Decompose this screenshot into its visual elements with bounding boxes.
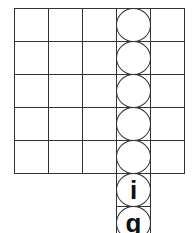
grid-cell[interactable] [14,74,49,108]
grid-cell[interactable] [150,8,185,42]
grid-cell[interactable] [82,140,117,174]
grid-cell[interactable] [150,107,185,141]
grid-cell[interactable] [150,74,185,108]
grid-cell[interactable] [82,41,117,75]
letter-circle[interactable] [116,74,151,108]
letter-circle[interactable] [116,140,151,174]
grid-cell[interactable] [82,8,117,42]
letter-circle[interactable]: i [116,173,151,207]
letter-circle[interactable] [116,107,151,141]
grid-cell[interactable] [48,8,83,42]
grid-cell[interactable] [48,140,83,174]
grid-cell[interactable] [14,8,49,42]
letter-circle[interactable] [116,8,151,42]
grid-cell[interactable] [14,107,49,141]
grid-cell[interactable] [82,107,117,141]
grid-cell[interactable] [48,74,83,108]
grid-cell[interactable] [150,140,185,174]
grid-cell[interactable] [82,74,117,108]
grid-cell[interactable] [14,41,49,75]
grid-cell[interactable] [150,41,185,75]
grid-cell[interactable] [14,140,49,174]
crossword-grid: ig [0,0,195,233]
letter-circle[interactable]: g [116,206,151,233]
letter-circle[interactable] [116,41,151,75]
grid-cell[interactable] [48,107,83,141]
grid-cell[interactable] [48,41,83,75]
